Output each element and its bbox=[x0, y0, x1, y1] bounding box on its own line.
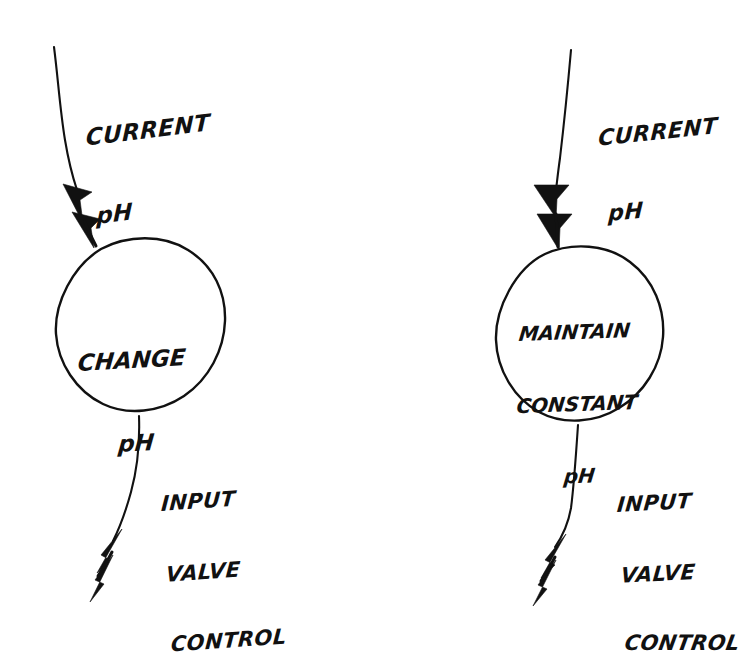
right-input-arrowhead-1 bbox=[534, 185, 569, 218]
right-node-label-line2: CONSTANT bbox=[486, 389, 668, 419]
left-output-label-line2: VALVE bbox=[165, 555, 282, 587]
right-output-label-line3: CONTROL bbox=[623, 632, 740, 656]
right-output-arrowhead-1 bbox=[541, 534, 566, 578]
right-output-arrowhead-2 bbox=[533, 560, 556, 606]
right-output-label-line1: INPUT bbox=[616, 488, 734, 518]
right-output-label-line2: VALVE bbox=[620, 558, 738, 588]
right-node-label-line1: MAINTAIN bbox=[483, 317, 665, 347]
left-output-label: INPUT VALVE CONTROL bbox=[157, 438, 291, 656]
left-output-arrowhead-1 bbox=[97, 529, 122, 573]
right-input-line bbox=[556, 50, 571, 190]
right-input-label-line1: CURRENT bbox=[598, 114, 718, 151]
left-input-label-line2: pH bbox=[96, 188, 221, 229]
right-output-label: INPUT VALVE CONTROL bbox=[614, 441, 740, 656]
right-input-label: CURRENT pH bbox=[592, 65, 732, 275]
left-output-arrowhead-2 bbox=[90, 555, 113, 602]
left-input-label-line1: CURRENT bbox=[85, 110, 210, 151]
right-input-label-line2: pH bbox=[608, 189, 728, 226]
right-input-arrowhead-2 bbox=[537, 214, 572, 250]
left-input-line bbox=[54, 47, 77, 190]
left-input-label: CURRENT pH bbox=[78, 59, 228, 281]
left-output-label-line3: CONTROL bbox=[170, 625, 287, 656]
left-node-label-line1: CHANGE bbox=[41, 342, 223, 379]
left-output-label-line1: INPUT bbox=[160, 485, 277, 517]
right-input-arrow-tail bbox=[556, 214, 558, 247]
